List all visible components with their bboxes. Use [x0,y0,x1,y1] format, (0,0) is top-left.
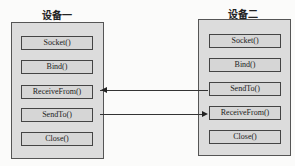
arrow-line-sendto-to-receivefrom-2 [100,114,206,115]
device-two-sendto: SendTo() [209,82,281,96]
arrow-head-left-icon [101,87,107,93]
device-one-bind: Bind() [21,60,93,74]
device-two-socket: Socket() [209,34,281,48]
device-one-container: Socket() Bind() ReceiveFrom() SendTo() C… [11,22,104,159]
device-one-title: 设备一 [27,7,87,22]
arrow-line-sendto-to-receivefrom-1 [100,90,208,91]
device-one-receivefrom: ReceiveFrom() [21,85,93,99]
arrow-head-right-icon [202,111,208,117]
device-two-container: Socket() Bind() SendTo() ReceiveFrom() C… [198,19,291,156]
device-two-receivefrom: ReceiveFrom() [209,106,281,120]
device-two-bind: Bind() [209,58,281,72]
device-one-socket: Socket() [21,36,93,50]
device-one-close: Close() [21,132,93,146]
device-one-sendto: SendTo() [21,108,93,122]
device-two-close: Close() [209,130,281,144]
